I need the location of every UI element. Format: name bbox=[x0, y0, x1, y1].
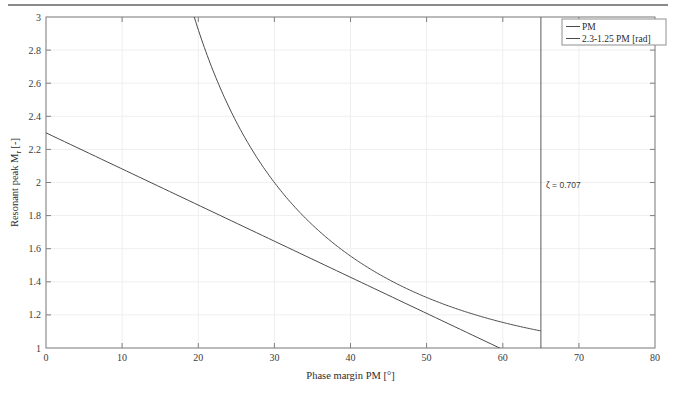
y-axis-title: Resonant peak Mr [-] bbox=[9, 138, 23, 227]
svg-text:Resonant peak Mr [-]: Resonant peak Mr [-] bbox=[9, 138, 23, 227]
x-tick-label: 10 bbox=[117, 352, 127, 363]
y-tick-label: 2.6 bbox=[29, 78, 42, 89]
x-tick-label: 80 bbox=[650, 352, 660, 363]
legend-label-linear-approx: 2.3-1.25 PM [rad] bbox=[582, 34, 651, 44]
y-tick-label: 1.8 bbox=[29, 210, 42, 221]
x-tick-label: 50 bbox=[422, 352, 432, 363]
legend: PM 2.3-1.25 PM [rad] bbox=[562, 19, 666, 45]
y-tick-label: 1 bbox=[36, 343, 41, 354]
x-tick-labels: 0 10 20 30 40 50 60 70 80 bbox=[44, 352, 661, 363]
x-tick-label: 20 bbox=[193, 352, 203, 363]
x-tick-label: 60 bbox=[498, 352, 508, 363]
x-tick-label: 70 bbox=[574, 352, 584, 363]
y-axis-title-unit: [-] bbox=[9, 138, 20, 151]
x-axis-title: Phase margin PM [°] bbox=[306, 370, 394, 381]
x-tick-label: 0 bbox=[44, 352, 49, 363]
legend-label-pm: PM bbox=[582, 22, 596, 32]
y-tick-label: 2 bbox=[36, 177, 41, 188]
y-tick-label: 2.4 bbox=[29, 111, 42, 122]
y-tick-label: 3 bbox=[36, 12, 41, 23]
y-axis-title-main: Resonant peak M bbox=[9, 153, 20, 227]
x-tick-label: 40 bbox=[346, 352, 356, 363]
y-tick-label: 2.8 bbox=[29, 45, 42, 56]
y-tick-label: 2.2 bbox=[29, 144, 42, 155]
x-tick-label: 30 bbox=[269, 352, 279, 363]
chart-figure: 0 10 20 30 40 50 60 70 80 1 1.2 1.4 1.6 … bbox=[0, 0, 676, 395]
y-tick-label: 1.6 bbox=[29, 243, 42, 254]
y-tick-label: 1.4 bbox=[29, 276, 42, 287]
zeta-annotation-label: ζ = 0.707 bbox=[546, 180, 581, 190]
figure-page: 0 10 20 30 40 50 60 70 80 1 1.2 1.4 1.6 … bbox=[0, 0, 676, 395]
y-tick-labels: 1 1.2 1.4 1.6 1.8 2 2.2 2.4 2.6 2.8 3 bbox=[29, 12, 42, 354]
y-tick-label: 1.2 bbox=[29, 309, 42, 320]
plot-svg: 0 10 20 30 40 50 60 70 80 1 1.2 1.4 1.6 … bbox=[0, 0, 676, 395]
